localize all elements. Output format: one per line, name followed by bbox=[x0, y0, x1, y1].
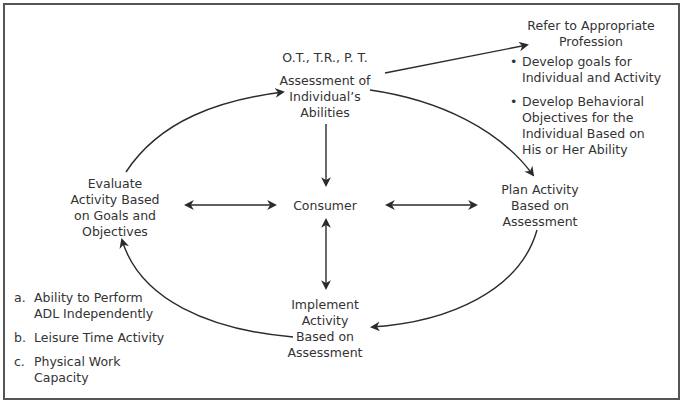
refer-heading-line: Profession bbox=[506, 34, 676, 50]
outcomes-list: a. Ability to Perform ADL Independently … bbox=[14, 290, 214, 394]
node-consumer: Consumer bbox=[280, 198, 370, 214]
outcome-marker: b. bbox=[14, 330, 26, 346]
node-plan: Plan Activity Based on Assessment bbox=[465, 182, 615, 230]
node-evaluate-line: on Goals and bbox=[40, 208, 190, 224]
refer-box: Refer to Appropriate Profession Develop … bbox=[506, 18, 676, 166]
node-evaluate-line: Objectives bbox=[40, 224, 190, 240]
node-implement-line: Based on bbox=[260, 329, 390, 345]
node-plan-line: Plan Activity bbox=[465, 182, 615, 198]
bullet-line: Develop Behavioral bbox=[522, 94, 676, 110]
node-implement-line: Activity bbox=[260, 313, 390, 329]
refer-heading-line: Refer to Appropriate bbox=[506, 18, 676, 34]
refer-bullet-item: Develop goals for Individual and Activit… bbox=[506, 54, 676, 86]
node-implement-line: Implement bbox=[260, 297, 390, 313]
node-assessment-line: Abilities bbox=[250, 105, 400, 121]
outcome-line: Capacity bbox=[34, 370, 214, 386]
node-evaluate: Evaluate Activity Based on Goals and Obj… bbox=[40, 176, 190, 240]
node-evaluate-line: Activity Based bbox=[40, 192, 190, 208]
professions-label: O.T., T.R., P. T. bbox=[250, 50, 400, 66]
bullet-line: Individual and Activity bbox=[522, 70, 676, 86]
outcome-line: ADL Independently bbox=[34, 306, 214, 322]
bullet-line: His or Her Ability bbox=[522, 142, 676, 158]
node-assessment-line: Assessment of bbox=[250, 73, 400, 89]
outcome-marker: c. bbox=[14, 354, 25, 370]
node-implement: Implement Activity Based on Assessment bbox=[260, 297, 390, 361]
node-evaluate-line: Evaluate bbox=[40, 176, 190, 192]
refer-bullet-item: Develop Behavioral Objectives for the In… bbox=[506, 94, 676, 158]
node-assessment-line: Individual’s bbox=[250, 89, 400, 105]
outcome-line: Physical Work bbox=[34, 354, 214, 370]
bullet-line: Objectives for the bbox=[522, 110, 676, 126]
node-plan-line: Based on bbox=[465, 198, 615, 214]
bullet-line: Individual Based on bbox=[522, 126, 676, 142]
node-implement-line: Assessment bbox=[260, 345, 390, 361]
outcome-line: Ability to Perform bbox=[34, 290, 214, 306]
outcome-marker: a. bbox=[14, 290, 26, 306]
node-consumer-label: Consumer bbox=[280, 198, 370, 214]
outcome-item: b. Leisure Time Activity bbox=[14, 330, 214, 346]
outcome-line: Leisure Time Activity bbox=[34, 330, 214, 346]
bullet-line: Develop goals for bbox=[522, 54, 676, 70]
arrow-plan-to-implement bbox=[372, 230, 537, 327]
refer-bullet-list: Develop goals for Individual and Activit… bbox=[506, 54, 676, 158]
outcome-item: c. Physical Work Capacity bbox=[14, 354, 214, 386]
node-assessment: O.T., T.R., P. T. Assessment of Individu… bbox=[250, 50, 400, 121]
node-plan-line: Assessment bbox=[465, 214, 615, 230]
outcome-item: a. Ability to Perform ADL Independently bbox=[14, 290, 214, 322]
refer-heading: Refer to Appropriate Profession bbox=[506, 18, 676, 50]
